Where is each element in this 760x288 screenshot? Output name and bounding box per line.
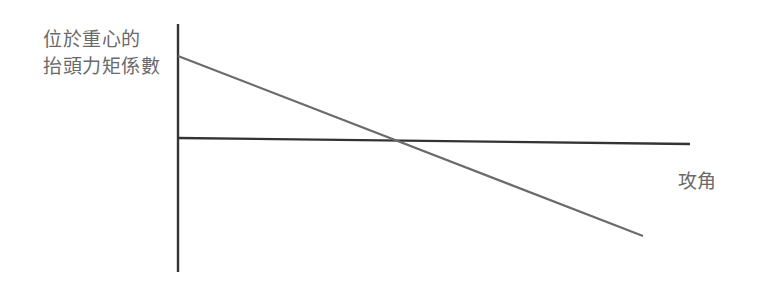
y-axis-label-line-2: 抬頭力矩係數 <box>43 53 160 80</box>
x-axis <box>178 138 690 144</box>
y-axis-label: 位於重心的 抬頭力矩係數 <box>43 26 160 80</box>
moment-coefficient-line <box>178 56 643 236</box>
x-axis-label: 攻角 <box>678 169 716 193</box>
y-axis-label-line-1: 位於重心的 <box>43 26 160 53</box>
